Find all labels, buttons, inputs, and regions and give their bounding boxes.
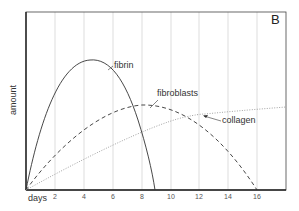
chart-canvas — [0, 0, 299, 211]
x-tick-8: 8 — [140, 193, 144, 200]
panel-label: B — [271, 12, 280, 27]
collagen-label: collagen — [222, 115, 256, 125]
x-tick-10: 10 — [167, 193, 175, 200]
x-tick-14: 14 — [224, 193, 232, 200]
x-axis-label: days — [28, 193, 47, 203]
fibroblasts-leader — [150, 100, 158, 108]
x-tick-12: 12 — [195, 193, 203, 200]
x-tick-16: 16 — [253, 193, 261, 200]
fibroblasts-label: fibroblasts — [157, 88, 198, 98]
collagen-arrowhead — [203, 115, 208, 118]
fibrin-label: fibrin — [114, 60, 134, 70]
x-tick-2: 2 — [53, 193, 57, 200]
plot-frame — [26, 12, 286, 190]
vertical-gridlines — [55, 12, 257, 190]
x-tick-4: 4 — [82, 193, 86, 200]
x-tick-6: 6 — [111, 193, 115, 200]
y-axis-label: amount — [8, 85, 18, 115]
